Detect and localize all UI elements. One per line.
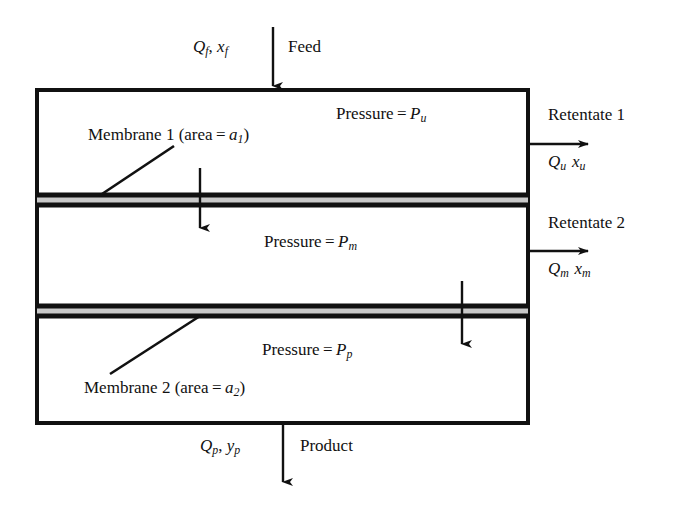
membrane-1-label: Membrane 1 (area = a1) <box>88 126 249 146</box>
diagram-canvas <box>0 0 686 507</box>
retentate-1-stream-label: Retentate 1 <box>548 106 625 125</box>
membrane-separator-diagram: Qf, xf Feed Membrane 1 (area = a1) Press… <box>0 0 686 507</box>
middle-chamber-pressure-label: Pressure = Pm <box>264 233 357 253</box>
retentate-2-flow-label: Qm xm <box>548 260 591 280</box>
product-flow-label: Qp, yp <box>200 437 240 457</box>
membrane-2-band <box>37 304 528 316</box>
upper-chamber-pressure-label: Pressure = Pu <box>336 105 426 125</box>
feed-stream-label: Feed <box>288 38 321 57</box>
retentate-1-flow-label: Qu xu <box>548 153 585 173</box>
retentate-2-stream-label: Retentate 2 <box>548 214 625 233</box>
membrane-2-label: Membrane 2 (area = a2) <box>84 379 245 399</box>
feed-flow-label: Qf, xf <box>193 38 228 58</box>
lower-chamber-pressure-label: Pressure = Pp <box>262 341 352 361</box>
membrane-1-band <box>37 193 528 205</box>
product-stream-label: Product <box>300 437 353 456</box>
